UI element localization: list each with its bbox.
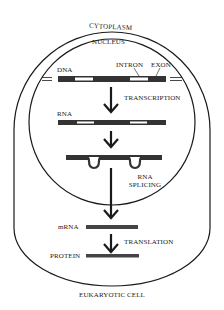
rna-label: RNA bbox=[57, 111, 72, 118]
dna-label: DNA bbox=[57, 67, 72, 74]
cell-diagram bbox=[0, 0, 224, 310]
rna-splicing-label-line2: SPLICING bbox=[122, 182, 168, 189]
protein-label: PROTEIN bbox=[50, 253, 80, 260]
exon-label: EXON bbox=[151, 62, 171, 69]
transcription-label: TRANSCRIPTION bbox=[124, 95, 181, 102]
translation-label: TRANSLATION bbox=[124, 239, 173, 246]
splicing-arrow bbox=[104, 168, 118, 218]
spliced-rna bbox=[66, 155, 162, 168]
rna-strand bbox=[58, 120, 166, 125]
translation-arrow bbox=[104, 234, 118, 252]
diagram-title: EUKARYOTIC CELL bbox=[62, 292, 162, 299]
intron-label: INTRON bbox=[116, 62, 143, 69]
transcription-arrow bbox=[104, 87, 118, 112]
splice-prep-arrow bbox=[104, 131, 118, 147]
mrna-strand bbox=[86, 225, 138, 229]
nucleus-label: NUCLEUS bbox=[92, 39, 125, 46]
protein-chain bbox=[86, 254, 139, 258]
rna-splicing-label-line1: RNA bbox=[130, 174, 160, 181]
mrna-label: mRNA bbox=[58, 224, 79, 231]
